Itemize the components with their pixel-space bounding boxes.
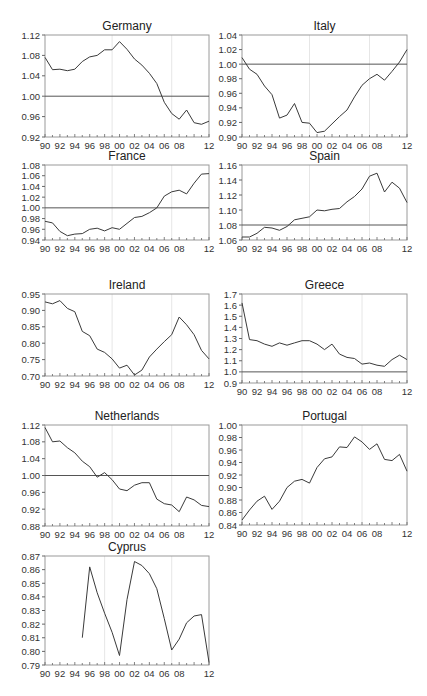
svg-text:1.08: 1.08 bbox=[22, 436, 41, 447]
line-chart: 0.950.900.850.800.750.709092949698000204… bbox=[45, 294, 209, 392]
svg-text:0.86: 0.86 bbox=[219, 507, 238, 518]
panel-france: France1.081.061.041.021.000.980.960.9490… bbox=[45, 165, 209, 240]
line-chart: 1.081.061.041.021.000.980.960.9490929496… bbox=[45, 165, 209, 256]
svg-text:1.06: 1.06 bbox=[219, 235, 238, 246]
svg-text:1.02: 1.02 bbox=[219, 44, 238, 55]
svg-text:06: 06 bbox=[159, 379, 170, 390]
svg-text:1.00: 1.00 bbox=[22, 91, 41, 102]
svg-text:96: 96 bbox=[282, 243, 293, 254]
svg-text:08: 08 bbox=[372, 386, 383, 397]
svg-text:08: 08 bbox=[174, 529, 185, 540]
svg-text:04: 04 bbox=[144, 379, 155, 390]
svg-text:0.9: 0.9 bbox=[224, 378, 237, 389]
svg-text:1.04: 1.04 bbox=[22, 181, 41, 192]
svg-text:04: 04 bbox=[144, 668, 155, 679]
svg-text:0.84: 0.84 bbox=[22, 591, 41, 602]
panel-spain: Spain1.161.141.121.101.081.0690929496980… bbox=[242, 165, 407, 240]
svg-text:1.10: 1.10 bbox=[219, 205, 238, 216]
panel-netherlands: Netherlands1.121.081.041.000.960.920.889… bbox=[45, 425, 209, 526]
panel-germany: Germany1.121.081.041.000.960.92909294969… bbox=[45, 35, 209, 137]
line-chart: 0.870.860.850.840.830.820.810.800.799092… bbox=[45, 556, 209, 681]
svg-text:1.12: 1.12 bbox=[22, 420, 41, 431]
svg-text:12: 12 bbox=[402, 528, 413, 539]
data-series-line bbox=[242, 303, 407, 366]
svg-text:04: 04 bbox=[144, 529, 155, 540]
line-chart: 1.121.081.041.000.960.920.88909294969800… bbox=[45, 425, 209, 542]
svg-text:06: 06 bbox=[159, 243, 170, 254]
svg-text:1.08: 1.08 bbox=[219, 220, 238, 231]
svg-text:00: 00 bbox=[114, 529, 125, 540]
svg-text:1.08: 1.08 bbox=[22, 50, 41, 61]
data-series-line bbox=[45, 428, 209, 512]
svg-text:0.95: 0.95 bbox=[22, 289, 41, 300]
svg-text:0.96: 0.96 bbox=[219, 445, 238, 456]
svg-text:00: 00 bbox=[114, 668, 125, 679]
svg-text:12: 12 bbox=[204, 379, 215, 390]
svg-text:04: 04 bbox=[342, 386, 353, 397]
svg-text:08: 08 bbox=[174, 379, 185, 390]
svg-text:1.04: 1.04 bbox=[22, 70, 41, 81]
svg-text:0.82: 0.82 bbox=[22, 619, 41, 630]
svg-text:96: 96 bbox=[84, 529, 95, 540]
svg-text:92: 92 bbox=[252, 528, 263, 539]
svg-text:1.04: 1.04 bbox=[22, 453, 41, 464]
svg-text:90: 90 bbox=[237, 528, 248, 539]
data-series-line bbox=[45, 174, 209, 236]
data-series-line bbox=[242, 437, 407, 520]
line-chart: 1.000.980.960.940.920.900.880.860.849092… bbox=[242, 425, 407, 541]
svg-text:92: 92 bbox=[55, 243, 66, 254]
svg-text:0.86: 0.86 bbox=[22, 564, 41, 575]
svg-text:90: 90 bbox=[40, 379, 51, 390]
svg-text:00: 00 bbox=[312, 528, 323, 539]
svg-text:0.96: 0.96 bbox=[22, 224, 41, 235]
svg-text:08: 08 bbox=[372, 528, 383, 539]
svg-text:94: 94 bbox=[70, 243, 81, 254]
svg-text:96: 96 bbox=[282, 528, 293, 539]
svg-text:08: 08 bbox=[174, 243, 185, 254]
svg-text:92: 92 bbox=[55, 379, 66, 390]
svg-text:92: 92 bbox=[252, 386, 263, 397]
svg-text:08: 08 bbox=[372, 243, 383, 254]
svg-text:0.87: 0.87 bbox=[22, 551, 41, 562]
svg-text:1.3: 1.3 bbox=[224, 333, 237, 344]
svg-text:1.00: 1.00 bbox=[219, 59, 238, 70]
panel-title: Spain bbox=[242, 149, 407, 163]
svg-text:00: 00 bbox=[312, 243, 323, 254]
svg-text:0.88: 0.88 bbox=[219, 495, 238, 506]
svg-text:94: 94 bbox=[267, 386, 278, 397]
svg-text:94: 94 bbox=[267, 243, 278, 254]
data-series-line bbox=[45, 301, 209, 375]
line-chart: 1.71.61.51.41.31.21.11.00.99092949698000… bbox=[242, 294, 407, 399]
svg-text:1.6: 1.6 bbox=[224, 300, 237, 311]
svg-text:98: 98 bbox=[297, 386, 308, 397]
svg-text:94: 94 bbox=[267, 528, 278, 539]
svg-text:1.4: 1.4 bbox=[224, 322, 237, 333]
svg-text:96: 96 bbox=[84, 243, 95, 254]
svg-text:96: 96 bbox=[282, 386, 293, 397]
svg-text:12: 12 bbox=[204, 668, 215, 679]
svg-text:98: 98 bbox=[99, 529, 110, 540]
svg-text:96: 96 bbox=[84, 668, 95, 679]
svg-text:98: 98 bbox=[99, 668, 110, 679]
panel-title: Greece bbox=[242, 278, 407, 292]
svg-text:94: 94 bbox=[70, 379, 81, 390]
panel-title: Cyprus bbox=[45, 540, 209, 554]
svg-text:90: 90 bbox=[40, 668, 51, 679]
svg-text:1.14: 1.14 bbox=[219, 175, 238, 186]
svg-text:02: 02 bbox=[129, 529, 140, 540]
svg-text:0.98: 0.98 bbox=[219, 432, 238, 443]
svg-text:12: 12 bbox=[204, 243, 215, 254]
svg-text:94: 94 bbox=[70, 668, 81, 679]
svg-text:0.90: 0.90 bbox=[219, 482, 238, 493]
svg-text:1.7: 1.7 bbox=[224, 289, 237, 300]
svg-text:1.06: 1.06 bbox=[22, 170, 41, 181]
svg-text:12: 12 bbox=[204, 529, 215, 540]
svg-text:92: 92 bbox=[252, 243, 263, 254]
svg-text:1.12: 1.12 bbox=[219, 190, 238, 201]
svg-text:90: 90 bbox=[237, 386, 248, 397]
panel-greece: Greece1.71.61.51.41.31.21.11.00.99092949… bbox=[242, 294, 407, 383]
svg-text:0.75: 0.75 bbox=[22, 354, 41, 365]
panel-title: Portugal bbox=[242, 409, 407, 423]
svg-text:98: 98 bbox=[99, 379, 110, 390]
panel-title: France bbox=[45, 149, 209, 163]
